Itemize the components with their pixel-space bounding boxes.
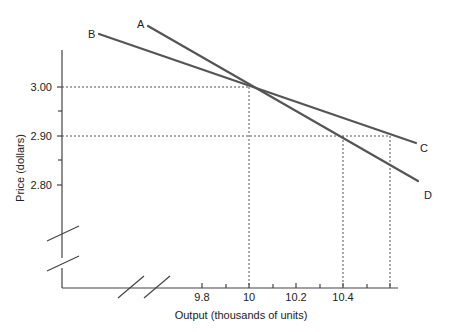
x-tick-label: 10.2 <box>285 291 306 303</box>
y-axis-title: Price (dollars) <box>14 134 26 202</box>
curve-label-D: D <box>424 189 432 201</box>
x-axis-title: Output (thousands of units) <box>175 309 308 321</box>
x-tick-label: 10.4 <box>332 291 353 303</box>
curve-label-C: C <box>420 142 428 154</box>
x-tick-label: 9.8 <box>194 291 209 303</box>
price-output-chart: 3.00 2.90 2.80 9.8 10 10.2 10.4 Output (… <box>0 0 450 332</box>
y-axis-break-mark <box>47 256 79 271</box>
y-tick-label: 3.00 <box>31 81 52 93</box>
x-tick-label: 10 <box>243 291 255 303</box>
line-AD <box>148 26 418 181</box>
y-tick-label: 2.80 <box>31 179 52 191</box>
line-BC <box>99 34 416 143</box>
curve-label-B: B <box>88 28 95 40</box>
x-axis-break-mark <box>144 276 170 298</box>
y-tick-label: 2.90 <box>31 130 52 142</box>
y-axis-break-mark <box>47 226 79 241</box>
curve-label-A: A <box>137 18 145 30</box>
x-axis-break-mark <box>118 276 144 298</box>
